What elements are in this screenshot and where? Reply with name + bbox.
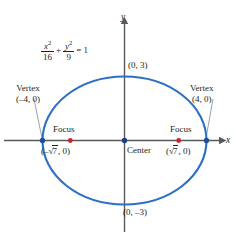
- bottom-covertex-coord: (0, –3): [123, 207, 147, 218]
- vertex-left-dot: [40, 138, 45, 143]
- vertex-right-title: Vertex: [190, 83, 214, 94]
- ellipse-equation: x216+y29=1: [40, 38, 89, 62]
- focus-right-coord-close: , 0): [178, 146, 190, 156]
- top-covertex-coord: (0, 3): [128, 60, 148, 71]
- equation-y-numerator: y2: [63, 38, 74, 52]
- focus-left-dot: [68, 138, 73, 143]
- equation-y-exponent: 2: [69, 39, 72, 46]
- focus-left-coord-open: (–: [41, 146, 49, 156]
- equation-equals-operator: =: [76, 45, 81, 55]
- equation-x-fraction: x216: [41, 38, 54, 62]
- ellipse-figure: x216+y29=1 y x Vertex (–4, 0) Vertex (4,…: [0, 0, 237, 238]
- equation-x-denominator: 16: [41, 52, 54, 62]
- focus-left-title: Focus: [53, 124, 75, 135]
- vertex-right-coord: (4, 0): [190, 94, 214, 105]
- x-axis-label: x: [226, 135, 230, 146]
- center-label: Center: [127, 145, 151, 156]
- focus-left-coord: (–√7, 0): [41, 145, 70, 157]
- center-dot: [122, 138, 127, 143]
- vertex-left-title: Vertex: [16, 83, 40, 94]
- focus-right-title: Focus: [170, 124, 192, 135]
- equation-x-numerator: x2: [41, 38, 54, 52]
- vertex-left-coord: (–4, 0): [16, 94, 40, 105]
- equation-y-fraction: y29: [63, 38, 74, 62]
- equation-x-exponent: 2: [48, 39, 51, 46]
- vertex-left-label: Vertex (–4, 0): [16, 83, 40, 105]
- equation-plus-operator: +: [56, 45, 61, 55]
- vertex-right-dot: [204, 138, 209, 143]
- equation-y-denominator: 9: [63, 52, 74, 62]
- equation-right-side: 1: [83, 45, 88, 55]
- y-axis-label: y: [121, 12, 125, 23]
- focus-left-coord-close: , 0): [58, 146, 70, 156]
- focus-right-coord: (√7, 0): [166, 145, 190, 157]
- focus-right-dot: [176, 138, 181, 143]
- vertex-right-label: Vertex (4, 0): [190, 83, 214, 105]
- graph-canvas: [0, 0, 237, 238]
